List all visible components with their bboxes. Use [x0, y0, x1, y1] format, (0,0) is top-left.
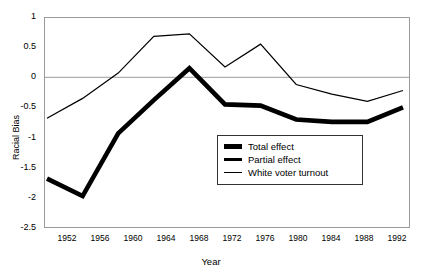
y-tick-label: 0.5 [0, 42, 36, 51]
y-tick-label: -2.5 [0, 223, 36, 232]
y-tick-label: -2 [0, 193, 36, 202]
y-tick-label: -0.5 [0, 102, 36, 111]
legend-item-total-effect: Total effect [224, 140, 357, 153]
legend: Total effect Partial effect White voter … [217, 135, 363, 185]
x-axis-title: Year [0, 256, 422, 267]
y-tick-label: 0 [0, 72, 36, 81]
medium-line-swatch-icon [224, 158, 242, 161]
legend-item-partial-effect: Partial effect [224, 153, 357, 166]
legend-label: Total effect [248, 142, 294, 152]
x-tick-label: 1992 [377, 234, 417, 243]
y-tick-label: 1 [0, 12, 36, 21]
racial-bias-line-chart: 1 0.5 0 -0.5 -1 -1.5 -2 -2.5 1952 1956 1… [0, 0, 422, 271]
thick-line-swatch-icon [224, 144, 242, 149]
plot-area [44, 17, 410, 228]
thin-line-swatch-icon [224, 172, 242, 173]
y-tick-label: -1.5 [0, 163, 36, 172]
legend-label: White voter turnout [248, 168, 328, 178]
y-axis-title: Racial Bias [11, 115, 21, 160]
legend-item-white-voter-turnout: White voter turnout [224, 166, 357, 179]
legend-label: Partial effect [248, 155, 301, 165]
